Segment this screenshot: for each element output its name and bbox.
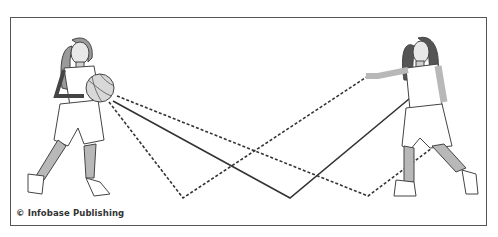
dashed-pass-path-2	[117, 96, 432, 196]
pass-paths	[109, 76, 432, 198]
left-player-figure	[28, 38, 114, 196]
solid-pass-path	[113, 94, 415, 198]
copyright-credit: © Infobase Publishing	[16, 208, 124, 218]
dashed-pass-path-1	[109, 76, 368, 198]
passing-drill-illustration	[0, 0, 498, 237]
right-player-figure	[366, 37, 478, 196]
basketball	[86, 74, 114, 102]
